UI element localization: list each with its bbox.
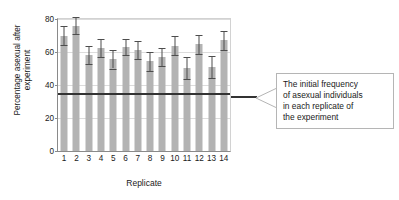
y-axis-title: Percentage asexual after experiment: [13, 0, 33, 145]
error-bar-stem: [223, 31, 224, 50]
x-tick-label: 11: [183, 154, 192, 163]
bar: [220, 40, 227, 151]
x-tick-label: 4: [99, 154, 104, 163]
error-bar-cap-lower: [61, 45, 68, 46]
reference-line-annotation: The initial frequency of asexual individ…: [276, 73, 394, 129]
error-bar-stem: [186, 57, 187, 79]
bar-group: [144, 19, 156, 151]
bar-group: [95, 19, 107, 151]
bar: [122, 47, 129, 151]
error-bar-stem: [150, 52, 151, 71]
y-tick-label: 40: [45, 81, 54, 90]
error-bar-cap-lower: [196, 54, 203, 55]
bar: [73, 26, 80, 151]
bar: [159, 57, 166, 151]
error-bar-cap-upper: [220, 31, 227, 32]
error-bar-cap-upper: [159, 48, 166, 49]
error-bar-cap-lower: [122, 55, 129, 56]
annotation-line-1: The initial frequency: [283, 79, 389, 90]
x-tick-label: 8: [148, 154, 153, 163]
x-tick-label: 13: [207, 154, 216, 163]
error-bar-stem: [174, 36, 175, 55]
annotation-line-2: of asexual individuals: [283, 90, 389, 101]
error-bar-cap-upper: [134, 41, 141, 42]
y-tick-label: 60: [45, 48, 54, 57]
error-bar-stem: [64, 26, 65, 45]
bar-group: [205, 19, 217, 151]
reference-line: [58, 93, 230, 95]
x-tick-label: 6: [123, 154, 128, 163]
annotation-line-4: the experiment: [283, 112, 389, 123]
error-bar-stem: [88, 46, 89, 64]
bar-group: [193, 19, 205, 151]
x-tick-label: 1: [62, 154, 67, 163]
bar-series: [58, 19, 230, 151]
bar: [208, 67, 215, 151]
error-bar-cap-upper: [183, 57, 190, 58]
error-bar-stem: [162, 48, 163, 66]
error-bar-cap-lower: [183, 79, 190, 80]
error-bar-stem: [76, 17, 77, 34]
error-bar-cap-upper: [61, 26, 68, 27]
error-bar-stem: [199, 35, 200, 54]
error-bar-cap-lower: [97, 57, 104, 58]
x-tick-label: 2: [74, 154, 79, 163]
x-tick-label: 9: [160, 154, 165, 163]
error-bar-cap-lower: [73, 34, 80, 35]
error-bar-cap-lower: [159, 66, 166, 67]
error-bar-cap-upper: [97, 39, 104, 40]
bar-group: [218, 19, 230, 151]
error-bar-cap-lower: [134, 59, 141, 60]
y-tick-mark: [55, 151, 58, 152]
error-bar-cap-upper: [110, 50, 117, 51]
bar-group: [169, 19, 181, 151]
error-bar-cap-upper: [85, 46, 92, 47]
x-tick-label: 3: [86, 154, 91, 163]
error-bar-stem: [137, 41, 138, 59]
bar-group: [181, 19, 193, 151]
bar-group: [132, 19, 144, 151]
x-tick-label: 14: [219, 154, 228, 163]
annotation-line-3: in each replicate of: [283, 101, 389, 112]
bar: [110, 59, 117, 151]
bar: [171, 46, 178, 151]
chart-figure: Percentage asexual after experiment 0204…: [0, 0, 399, 200]
callout-tail-icon: [256, 88, 277, 108]
error-bar-cap-lower: [220, 50, 227, 51]
error-bar-cap-lower: [147, 71, 154, 72]
error-bar-cap-upper: [196, 35, 203, 36]
callout-leader-line: [231, 96, 257, 98]
x-tick-label: 12: [195, 154, 204, 163]
error-bar-cap-upper: [147, 52, 154, 53]
x-tick-label: 7: [136, 154, 141, 163]
error-bar-stem: [211, 56, 212, 77]
bar-group: [83, 19, 95, 151]
error-bar-cap-lower: [208, 78, 215, 79]
plot-area: 020406080 1234567891011121314: [57, 18, 231, 152]
bar: [147, 61, 154, 151]
y-tick-label: 80: [45, 15, 54, 24]
bar-group: [70, 19, 82, 151]
bar-group: [107, 19, 119, 151]
bar: [134, 50, 141, 151]
error-bar-cap-upper: [208, 56, 215, 57]
error-bar-stem: [125, 39, 126, 56]
bar: [85, 55, 92, 151]
bar: [97, 48, 104, 151]
error-bar-cap-lower: [171, 55, 178, 56]
error-bar-cap-lower: [110, 69, 117, 70]
error-bar-cap-upper: [73, 17, 80, 18]
x-tick-label: 5: [111, 154, 116, 163]
error-bar-cap-upper: [171, 36, 178, 37]
y-tick-label: 20: [45, 114, 54, 123]
error-bar-cap-lower: [85, 64, 92, 65]
error-bar-stem: [100, 39, 101, 57]
x-axis-title: Replicate: [57, 178, 231, 188]
bar-group: [119, 19, 131, 151]
error-bar-cap-upper: [122, 39, 129, 40]
bar-group: [58, 19, 70, 151]
bar-group: [156, 19, 168, 151]
y-tick-label: 0: [49, 147, 54, 156]
x-tick-label: 10: [170, 154, 179, 163]
error-bar-stem: [113, 50, 114, 69]
